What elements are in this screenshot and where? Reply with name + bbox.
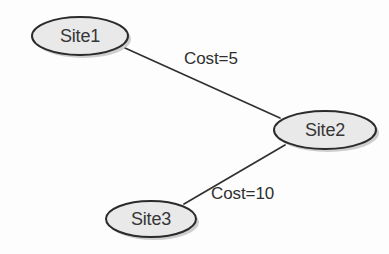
edge-label-cost-10: Cost=10 [211, 184, 274, 203]
node-site2-label: Site2 [305, 120, 345, 140]
node-site1-label: Site1 [60, 26, 100, 46]
diagram-canvas: Site1 Site2 Site3 Cost=5 Cost=10 [0, 0, 389, 254]
node-site1[interactable]: Site1 [32, 17, 131, 58]
edge-label-cost-5: Cost=5 [184, 49, 238, 68]
node-site3-label: Site3 [131, 209, 171, 229]
node-site2[interactable]: Site2 [274, 111, 379, 152]
network-diagram: Site1 Site2 Site3 Cost=5 Cost=10 [0, 0, 389, 254]
node-site3[interactable]: Site3 [106, 201, 199, 240]
